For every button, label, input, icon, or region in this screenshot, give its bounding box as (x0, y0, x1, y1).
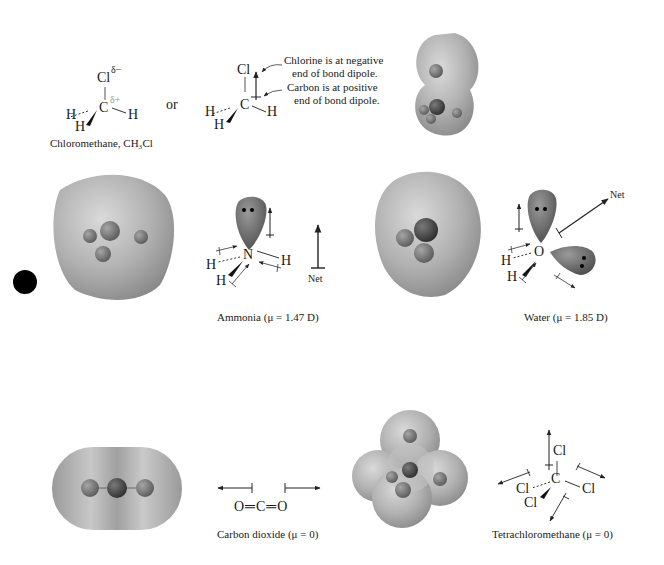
atom-h-left: H (206, 257, 216, 273)
annotation-line: Chlorine is at negative (284, 54, 383, 67)
atom-n: N (243, 247, 253, 263)
ammonia-net-label: Net (308, 273, 322, 284)
co2-caption: Carbon dioxide (μ = 0) (217, 528, 318, 540)
partial-negative-charge: δ− (111, 64, 121, 75)
annotation-line: end of bond dipole. (284, 67, 383, 80)
or-label: or (166, 97, 178, 113)
atom-h-right: H (281, 253, 291, 269)
click-marker-dot (13, 270, 37, 294)
water-net-label: Net (610, 189, 624, 200)
water-caption: Water (μ = 1.85 D) (524, 311, 608, 323)
atom-h-front: H (214, 117, 224, 133)
atom-o: O (534, 244, 544, 260)
water-potential-map (375, 172, 481, 297)
ammonia-caption: Ammonia (μ = 1.47 D) (217, 311, 319, 323)
chloromethane-caption: Chloromethane, CH₃Cl (50, 137, 153, 149)
ammonia-potential-map (53, 175, 174, 300)
chloromethane-potential-map (415, 33, 478, 136)
atom-cl-right: Cl (582, 481, 595, 497)
atom-cl: Cl (97, 70, 110, 86)
atom-h-front: H (75, 119, 85, 135)
water-structure (508, 190, 608, 288)
atom-h-left: H (501, 253, 511, 269)
co2-potential-map (52, 447, 182, 530)
atom-c: C (240, 97, 249, 113)
partial-positive-charge: δ+ (110, 94, 120, 105)
ccl4-caption: Tetrachloromethane (μ = 0) (492, 528, 613, 540)
atom-h-right: H (267, 104, 277, 120)
co2-formula: O═C═O (234, 499, 288, 515)
water-net-dipole-arrow (559, 199, 608, 233)
carbon-annotation: Carbon is at positive end of bond dipole… (287, 81, 380, 107)
co2-dipole-arrows (218, 483, 320, 493)
atom-c: C (99, 100, 108, 116)
annotation-line: end of bond dipole. (287, 94, 380, 107)
annotation-line: Carbon is at positive (287, 81, 380, 94)
atom-cl: Cl (237, 62, 250, 78)
atom-c: C (551, 471, 560, 487)
ccl4-potential-map (352, 410, 468, 528)
atom-cl-front: Cl (524, 495, 537, 511)
chlorine-annotation: Chlorine is at negative end of bond dipo… (284, 54, 383, 80)
atom-h-front: H (216, 273, 226, 289)
atom-h-front: H (507, 269, 517, 285)
atom-h-right: H (128, 107, 138, 123)
atom-cl-top: Cl (553, 443, 566, 459)
